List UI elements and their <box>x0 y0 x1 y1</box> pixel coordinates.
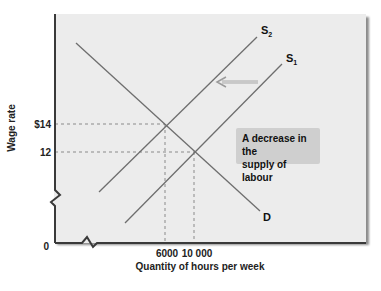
callout-line-1: A decrease in the <box>242 132 314 158</box>
x-tick-6000: 6000 <box>156 248 179 259</box>
x-tick-10000: 10 000 <box>182 248 213 259</box>
demand-curve <box>76 43 260 211</box>
label-s2: S2 <box>261 24 272 38</box>
shift-arrow-icon <box>217 77 258 87</box>
y-tick-14: $14 <box>34 119 51 130</box>
y-axis-break-icon <box>51 161 60 243</box>
callout-box: A decrease in the supply of labour <box>236 128 320 164</box>
x-axis-with-break <box>55 237 366 247</box>
y-axis-label: Wage rate <box>6 93 17 163</box>
x-axis-label: Quantity of hours per week <box>120 261 280 272</box>
callout-line-2: supply of labour <box>242 158 314 184</box>
dashed-guides <box>55 124 194 243</box>
origin-label: 0 <box>43 241 49 252</box>
y-tick-12: 12 <box>40 147 52 158</box>
label-s1: S1 <box>286 52 297 66</box>
label-d: D <box>263 211 271 223</box>
chart-plot: $14 12 0 6000 10 000 S2 S1 D <box>0 0 381 291</box>
